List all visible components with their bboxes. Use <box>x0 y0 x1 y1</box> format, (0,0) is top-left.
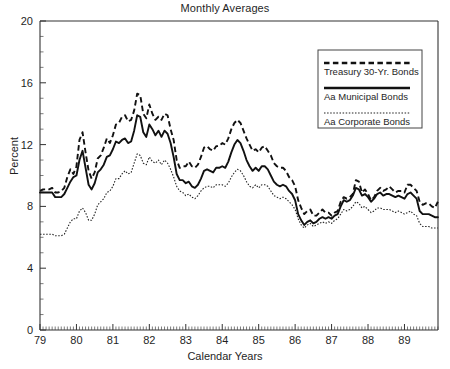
svg-text:12: 12 <box>21 139 33 151</box>
svg-text:82: 82 <box>143 334 155 346</box>
svg-text:81: 81 <box>107 334 119 346</box>
svg-text:84: 84 <box>216 334 228 346</box>
legend-label: Treasury 30-Yr. Bonds <box>324 66 419 77</box>
svg-text:88: 88 <box>362 334 374 346</box>
chart-legend[interactable]: Treasury 30-Yr. BondsAa Municipal BondsA… <box>318 50 422 128</box>
svg-text:83: 83 <box>180 334 192 346</box>
svg-text:8: 8 <box>27 200 33 212</box>
svg-text:79: 79 <box>34 334 46 346</box>
y-tick-labels: 048121620 <box>21 15 33 336</box>
legend-label: Aa Corporate Bonds <box>324 116 410 127</box>
svg-text:85: 85 <box>253 334 265 346</box>
svg-text:89: 89 <box>398 334 410 346</box>
svg-text:87: 87 <box>325 334 337 346</box>
svg-text:20: 20 <box>21 15 33 27</box>
x-tick-labels: 7980818283848586878889 <box>34 334 411 346</box>
series-line-dotted <box>40 154 438 236</box>
svg-text:16: 16 <box>21 77 33 89</box>
svg-text:4: 4 <box>27 262 33 274</box>
svg-text:86: 86 <box>289 334 301 346</box>
chart-page: Monthly Averages Percent Calendar Years … <box>0 0 450 369</box>
svg-text:80: 80 <box>70 334 82 346</box>
legend-label: Aa Municipal Bonds <box>324 91 408 102</box>
svg-text:0: 0 <box>27 324 33 336</box>
plot-area: 048121620 7980818283848586878889 Treasur… <box>0 0 450 369</box>
